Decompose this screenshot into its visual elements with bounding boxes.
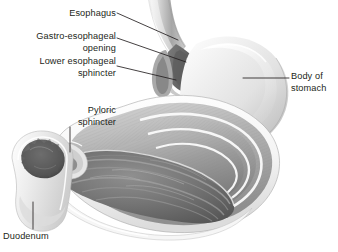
label-esophagus: Esophagus (6, 8, 116, 20)
label-body-of-stomach: Body of stomach (291, 71, 337, 94)
label-lower-esophageal-sphincter: Lower esophageal sphincter (6, 56, 116, 79)
stomach-anatomy-figure: Esophagus Gastro-esophageal opening Lowe… (0, 0, 338, 252)
duodenal-bulb (12, 131, 73, 231)
label-gastro-esophageal-opening: Gastro-esophageal opening (6, 31, 116, 54)
label-pyloric-sphincter: Pyloric sphincter (6, 105, 116, 128)
label-duodenum: Duodenum (3, 231, 73, 243)
